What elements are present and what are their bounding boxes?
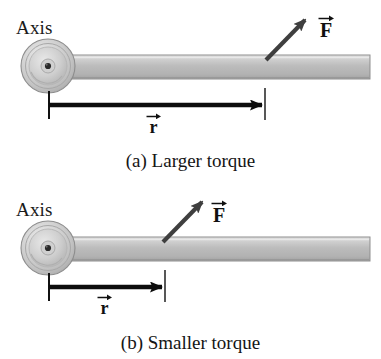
torque-figure: Axis F r (a) Larger torque <box>0 0 381 359</box>
radius-vector-symbol-b: r <box>97 299 112 317</box>
force-vector-symbol-a: F <box>318 20 334 40</box>
force-vector-arrow-icon <box>163 202 202 242</box>
force-vector-arrow-icon <box>266 20 305 60</box>
axis-label-b: Axis <box>16 200 53 219</box>
force-vector-symbol-b: F <box>211 205 227 225</box>
caption-smaller-torque: (b) Smaller torque <box>0 333 381 352</box>
panel-larger-torque: Axis F r (a) Larger torque <box>0 0 381 180</box>
axis-label-a: Axis <box>16 18 53 37</box>
radius-vector-label-b: r <box>97 293 112 317</box>
lever-rod-icon <box>60 237 370 261</box>
pivot-hub-icon <box>21 221 75 275</box>
radius-vector-symbol-a: r <box>146 118 161 136</box>
caption-larger-torque: (a) Larger torque <box>0 151 381 170</box>
force-vector-label-a: F <box>318 14 334 40</box>
force-vector-label-b: F <box>211 199 227 225</box>
pivot-hub-icon <box>21 39 75 93</box>
lever-rod-icon <box>60 55 370 79</box>
radius-vector-label-a: r <box>146 112 161 136</box>
